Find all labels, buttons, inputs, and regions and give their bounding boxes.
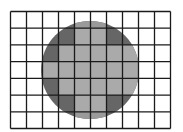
full-cell xyxy=(43,62,59,79)
full-cell xyxy=(59,78,75,95)
full-cell xyxy=(91,45,107,62)
full-cell xyxy=(107,78,123,95)
full-cell xyxy=(91,95,107,112)
full-cell xyxy=(75,28,91,45)
full-cell xyxy=(91,78,107,95)
grid-circle-diagram xyxy=(0,0,183,132)
full-cell xyxy=(59,62,75,79)
full-cell xyxy=(75,62,91,79)
full-cell xyxy=(59,45,75,62)
full-cell xyxy=(123,62,139,79)
full-cell xyxy=(91,62,107,79)
full-cell xyxy=(75,95,91,112)
full-cell xyxy=(107,45,123,62)
full-cell xyxy=(75,78,91,95)
full-cell xyxy=(91,28,107,45)
full-cell xyxy=(75,45,91,62)
full-cell xyxy=(107,62,123,79)
